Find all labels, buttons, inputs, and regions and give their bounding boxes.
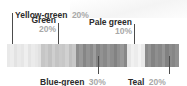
- callout-green[interactable]: Green 20%: [27, 16, 56, 34]
- callout-teal-label: Teal: [128, 77, 144, 86]
- color-band[interactable]: [7, 44, 179, 67]
- leader-line-teal: [169, 56, 170, 74]
- callout-pale-green[interactable]: Pale green 10%: [86, 18, 132, 36]
- band-stripe: [175, 44, 178, 67]
- callout-teal-percent: 20%: [149, 77, 166, 86]
- leader-line-yellow-green: [12, 13, 13, 44]
- callout-pale-green-percent: 10%: [86, 27, 132, 36]
- callout-blue-green-percent: 30%: [89, 77, 106, 86]
- callout-blue-green[interactable]: Blue-green 30%: [40, 72, 106, 86]
- callout-green-percent: 20%: [27, 25, 56, 34]
- callout-teal[interactable]: Teal 20%: [128, 72, 166, 86]
- leader-line-green: [58, 23, 59, 44]
- leader-line-pale-green: [134, 24, 135, 44]
- callout-blue-green-label: Blue-green: [40, 77, 84, 86]
- color-proportion-figure: Yellow-green 20% Green 20% Pale green 10…: [0, 0, 187, 86]
